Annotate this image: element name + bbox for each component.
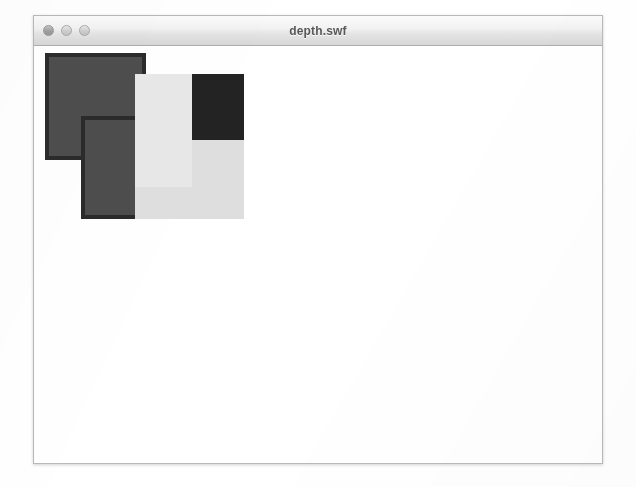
close-button-icon[interactable]	[43, 25, 54, 36]
window-controls	[43, 25, 90, 36]
application-window: depth.swf	[33, 15, 603, 464]
window-title: depth.swf	[34, 16, 602, 46]
flash-stage	[34, 46, 602, 463]
zoom-button-icon[interactable]	[79, 25, 90, 36]
square-light-lower	[135, 187, 192, 219]
minimize-button-icon[interactable]	[61, 25, 72, 36]
window-titlebar[interactable]: depth.swf	[34, 16, 602, 46]
square-light-wide	[192, 140, 244, 219]
square-light	[135, 74, 192, 187]
